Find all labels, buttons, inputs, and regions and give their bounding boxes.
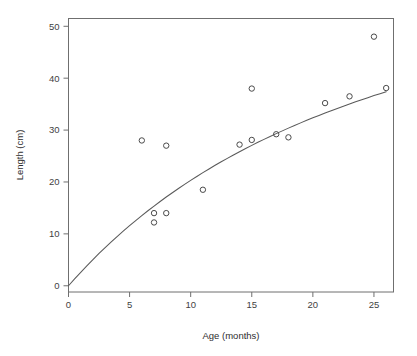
x-tick-label-5: 5: [127, 299, 132, 310]
y-tick-label-0: 0: [54, 280, 59, 291]
x-tick-label-0: 0: [66, 299, 71, 310]
y-tick-label-30: 30: [49, 124, 60, 135]
y-axis-title: Length (cm): [14, 130, 25, 181]
figure-background: [0, 0, 417, 356]
y-tick-label-40: 40: [49, 73, 60, 84]
y-tick-label-20: 20: [49, 176, 60, 187]
x-tick-label-10: 10: [185, 299, 196, 310]
y-tick-label-10: 10: [49, 228, 60, 239]
x-tick-label-25: 25: [369, 299, 380, 310]
y-tick-label-50: 50: [49, 21, 60, 32]
plot-canvas: 01020304050 0510152025 Age (months) Leng…: [0, 0, 417, 356]
scatter-plot-figure: 01020304050 0510152025 Age (months) Leng…: [0, 0, 417, 356]
x-tick-label-20: 20: [308, 299, 319, 310]
x-tick-label-15: 15: [246, 299, 257, 310]
x-axis-title: Age (months): [202, 330, 259, 341]
